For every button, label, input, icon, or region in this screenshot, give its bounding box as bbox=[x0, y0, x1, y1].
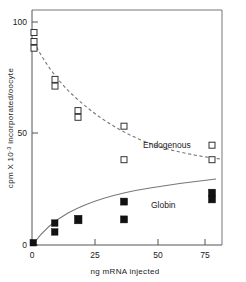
y-axis-title: cpm X 10-3 incorporated/oocyte bbox=[6, 68, 15, 189]
x-ticklabel-50: 50 bbox=[153, 250, 163, 260]
data-point-filled-square bbox=[52, 220, 59, 227]
data-point-filled-square bbox=[209, 189, 216, 196]
x-ticklabel-25: 25 bbox=[90, 250, 100, 260]
chart-figure: 0 50 100 0 25 50 75 ng mRNA injected cpm… bbox=[0, 0, 246, 282]
globin-trend-curve bbox=[34, 179, 216, 243]
data-point-open-square bbox=[52, 76, 58, 82]
data-point-open-square bbox=[209, 142, 215, 148]
y-axis-title-main: cpm X 10 bbox=[6, 152, 15, 188]
x-axis-title: ng mRNA injected bbox=[91, 267, 160, 276]
data-point-open-square bbox=[31, 39, 37, 45]
x-ticklabel-75: 75 bbox=[200, 250, 210, 260]
data-point-open-square bbox=[75, 114, 81, 120]
y-axis-ticks bbox=[32, 22, 38, 245]
x-axis-ticklabels: 0 25 50 75 bbox=[30, 250, 210, 260]
data-point-open-square bbox=[31, 45, 37, 51]
data-point-filled-square bbox=[121, 198, 128, 205]
data-point-filled-square bbox=[75, 215, 83, 224]
data-point-filled-square bbox=[30, 240, 37, 247]
x-ticklabel-0: 0 bbox=[30, 250, 35, 260]
data-point-filled-square bbox=[52, 229, 59, 236]
data-point-open-square bbox=[209, 157, 215, 163]
data-point-open-square bbox=[121, 157, 127, 163]
y-ticklabel-50: 50 bbox=[18, 128, 28, 138]
data-point-filled-square bbox=[121, 216, 128, 223]
endogenous-trend-curve bbox=[34, 42, 221, 159]
series-label-endogenous: Endogenous bbox=[143, 140, 191, 150]
data-point-open-square bbox=[75, 108, 81, 114]
y-axis-title-tail: incorporated/oocyte bbox=[6, 68, 15, 147]
y-ticklabel-100: 100 bbox=[13, 17, 27, 27]
y-ticklabel-0: 0 bbox=[22, 240, 27, 250]
data-point-open-square bbox=[31, 30, 37, 36]
data-point-filled-square bbox=[209, 196, 216, 203]
data-point-open-square bbox=[52, 83, 58, 89]
scatter-plot-svg: 0 50 100 0 25 50 75 ng mRNA injected cpm… bbox=[0, 0, 246, 282]
globin-data-points bbox=[30, 189, 216, 246]
x-axis-ticks bbox=[32, 239, 205, 245]
series-label-globin: Globin bbox=[151, 200, 176, 210]
data-point-open-square bbox=[121, 123, 127, 129]
